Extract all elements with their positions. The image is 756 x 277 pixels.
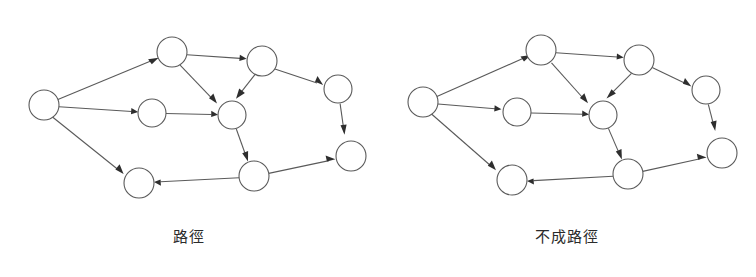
edge-n0-n8	[53, 117, 124, 174]
graph-node[interactable]	[239, 161, 269, 191]
graph-node[interactable]	[589, 101, 617, 129]
caption-path: 路徑	[0, 228, 378, 246]
edge-m1-m4	[556, 53, 624, 60]
edge-m5-m6	[708, 104, 716, 131]
caption-not-path: 不成路徑	[378, 228, 756, 246]
edge-m3-m7	[608, 128, 622, 159]
edge-n4-n5	[275, 69, 323, 85]
edge-n0-n2	[59, 107, 138, 114]
graph-node[interactable]	[336, 141, 366, 171]
panel-not-path: 不成路徑	[378, 0, 756, 277]
edge-n4-n3	[236, 74, 255, 98]
edge-m4-m5	[652, 68, 691, 87]
graph-node[interactable]	[247, 46, 277, 76]
edge-n7-n8	[154, 178, 239, 186]
graph-node[interactable]	[526, 35, 556, 65]
edge-n7-n6	[269, 155, 336, 173]
edge-group	[53, 55, 347, 186]
edge-n2-n3	[166, 111, 218, 117]
edge-m7-m8	[527, 176, 613, 184]
graph-node[interactable]	[692, 76, 720, 104]
edge-m1-m3	[552, 63, 589, 103]
node-group	[408, 35, 737, 195]
panel-path: 路徑	[0, 0, 378, 277]
edge-m4-m3	[607, 73, 632, 98]
graph-node[interactable]	[707, 138, 737, 168]
edge-n5-n6	[340, 104, 347, 135]
graph-node[interactable]	[218, 101, 246, 129]
graph-node[interactable]	[29, 90, 59, 120]
edge-m2-m3	[531, 111, 589, 117]
edge-group	[432, 53, 717, 185]
edge-m7-m6	[643, 154, 707, 172]
graph-node[interactable]	[624, 45, 654, 75]
edge-n1-n3	[180, 65, 217, 103]
graph-node[interactable]	[324, 75, 352, 103]
edge-n0-n1	[58, 58, 159, 100]
graph-node[interactable]	[503, 98, 531, 126]
graph-node[interactable]	[157, 37, 187, 67]
node-group	[29, 37, 366, 198]
graph-node[interactable]	[497, 165, 527, 195]
graph-node[interactable]	[408, 87, 438, 117]
graph-node[interactable]	[124, 168, 154, 198]
graph-node[interactable]	[613, 159, 643, 189]
edge-n1-n4	[187, 55, 247, 61]
edge-m0-m8	[432, 114, 497, 170]
edge-m0-m2	[438, 104, 501, 112]
figure-container: 路徑	[0, 0, 756, 277]
edge-m0-m1	[437, 55, 531, 97]
edge-n3-n7	[236, 129, 248, 162]
graph-node[interactable]	[138, 99, 166, 127]
